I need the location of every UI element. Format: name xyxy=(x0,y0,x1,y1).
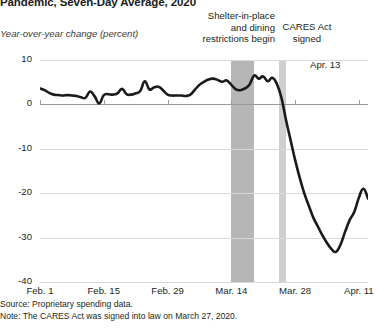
series-layer xyxy=(40,60,368,282)
x-axis-tick xyxy=(168,100,169,105)
cares-act-annotation: CARES Act signed xyxy=(276,21,338,44)
y-axis-tick-label: -10 xyxy=(2,142,32,153)
x-axis-tick xyxy=(40,100,41,105)
x-axis-tick-label: Apr. 11 xyxy=(329,285,378,296)
y-axis-tick-label: -30 xyxy=(2,231,32,242)
x-axis-tick xyxy=(231,100,232,105)
chart-title: Pandemic, Seven-Day Average, 2020 xyxy=(0,0,300,9)
shelter-in-place-annotation: Shelter-in-place and dining restrictions… xyxy=(168,10,275,45)
footnotes: Source: Proprietary spending data. Note:… xyxy=(0,299,368,322)
cares-annotation-line-2: signed xyxy=(276,33,338,45)
x-axis-tick-label: Feb. 29 xyxy=(138,285,198,296)
y-axis-tick-label: -20 xyxy=(2,186,32,197)
x-axis-tick-label: Mar. 28 xyxy=(265,285,325,296)
x-axis-tick-label: Feb. 1 xyxy=(10,285,70,296)
shelter-annotation-line-2: and dining xyxy=(168,22,275,34)
x-axis-tick xyxy=(104,100,105,105)
y-axis-tick-label: 10 xyxy=(2,53,32,64)
shelter-annotation-line-3: restrictions begin xyxy=(168,33,275,45)
gridline xyxy=(40,282,368,283)
cares-annotation-line-1: CARES Act xyxy=(276,21,338,33)
y-axis-title: Year-over-year change (percent) xyxy=(0,28,138,39)
x-axis-tick xyxy=(295,100,296,105)
shelter-annotation-line-1: Shelter-in-place xyxy=(168,10,275,22)
x-axis-tick xyxy=(359,100,360,105)
series-line xyxy=(40,75,368,252)
y-axis-tick-label: 0 xyxy=(2,97,32,108)
methodology-note: Note: The CARES Act was signed into law … xyxy=(0,311,368,323)
x-axis-tick-label: Feb. 15 xyxy=(74,285,134,296)
line-series-svg xyxy=(40,60,368,282)
x-axis-tick-label: Mar. 14 xyxy=(201,285,261,296)
source-note: Source: Proprietary spending data. xyxy=(0,299,368,311)
